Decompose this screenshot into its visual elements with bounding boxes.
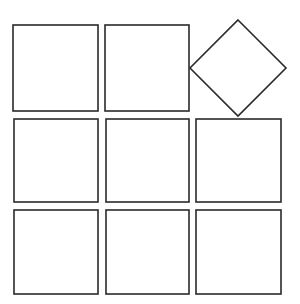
square-r3c2 [106,210,189,294]
square-r1c1 [13,25,98,111]
square-r3c1 [14,210,98,294]
square-r2c1 [14,119,98,202]
square-r3c3 [196,210,281,294]
square-r1c2 [105,25,189,111]
square-r2c2 [106,119,189,202]
square-r2c3 [196,119,281,202]
square-grid-diagram [0,0,300,304]
